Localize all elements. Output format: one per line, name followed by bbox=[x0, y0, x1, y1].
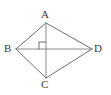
vertex-label-a: A bbox=[41, 9, 49, 20]
rhombus-diagonals bbox=[16, 23, 92, 78]
side-BC bbox=[16, 49, 46, 78]
geometry-figure: A B C D bbox=[0, 0, 111, 95]
rhombus-sides bbox=[16, 23, 92, 78]
vertex-label-c: C bbox=[41, 79, 48, 90]
right-angle-marker bbox=[39, 42, 46, 49]
side-AB bbox=[16, 23, 46, 49]
side-DA bbox=[46, 23, 92, 49]
side-CD bbox=[46, 49, 92, 78]
vertex-label-d: D bbox=[94, 43, 102, 54]
vertex-label-b: B bbox=[4, 43, 11, 54]
